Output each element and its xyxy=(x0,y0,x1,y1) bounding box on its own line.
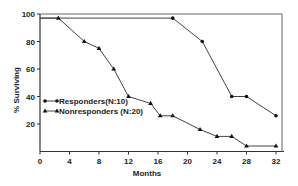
series-nonresponders xyxy=(40,16,278,148)
x-tick-label: 4 xyxy=(67,157,72,166)
series-lines xyxy=(40,16,278,148)
y-tick-label: 20 xyxy=(26,120,35,129)
x-tick-label: 20 xyxy=(183,157,192,166)
circle-marker-icon xyxy=(230,95,234,99)
y-axis-label: % Surviving xyxy=(12,67,21,113)
x-tick-label: 24 xyxy=(213,157,222,166)
circle-marker-icon xyxy=(43,99,47,103)
triangle-marker-icon xyxy=(229,134,234,138)
x-tick-label: 0 xyxy=(38,157,43,166)
y-tick-label: 100 xyxy=(22,10,36,19)
circle-marker-icon xyxy=(171,16,175,20)
x-tick-label: 12 xyxy=(124,157,133,166)
legend: Responders(N:10) Nonresponders (N:20) xyxy=(43,97,144,116)
y-tick-label: 60 xyxy=(26,65,35,74)
circle-marker-icon xyxy=(245,95,249,99)
x-tick-label: 8 xyxy=(97,157,102,166)
x-tick-label: 32 xyxy=(272,157,281,166)
triangle-marker-icon xyxy=(170,113,175,117)
legend-item-nonresponders: Nonresponders (N:20) xyxy=(43,107,144,116)
y-tick-label: 80 xyxy=(26,38,35,47)
survival-chart: 20406080100 048121620242832 Responders(N… xyxy=(0,0,298,186)
legend-item-responders: Responders(N:10) xyxy=(43,97,128,106)
circle-marker-icon xyxy=(200,40,204,44)
y-tick-label: 40 xyxy=(26,93,35,102)
legend-label-responders: Responders(N:10) xyxy=(59,97,128,106)
y-axis-ticks: 20406080100 xyxy=(22,10,40,129)
x-tick-label: 16 xyxy=(154,157,163,166)
x-axis-label: Months xyxy=(133,169,162,178)
legend-label-nonresponders: Nonresponders (N:20) xyxy=(59,107,143,116)
circle-marker-icon xyxy=(274,114,278,118)
x-tick-label: 28 xyxy=(242,157,251,166)
x-axis-ticks: 048121620242832 xyxy=(38,152,281,166)
